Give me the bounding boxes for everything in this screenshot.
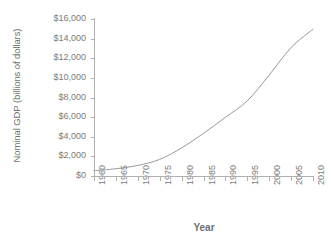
gdp-line-chart: Nominal GDP (billions of dollars) $0$2,0… bbox=[0, 0, 331, 243]
plot-area bbox=[0, 0, 331, 243]
tick-marks bbox=[91, 20, 314, 181]
axis-lines bbox=[95, 18, 315, 177]
gdp-data-line bbox=[94, 29, 313, 171]
